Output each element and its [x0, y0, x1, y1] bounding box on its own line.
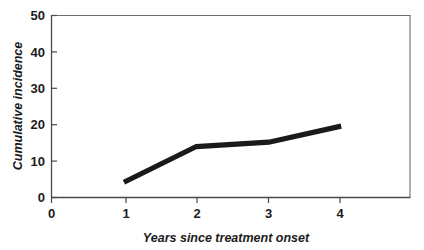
y-tick-label-0: 0: [38, 190, 45, 205]
line-chart: 0 10 20 30 40 50 0 1 2 3 4 Cumulative in…: [0, 0, 424, 250]
x-tick-label-4: 4: [336, 206, 344, 221]
y-tick-label-50: 50: [31, 8, 45, 23]
y-tick-label-10: 10: [31, 154, 45, 169]
y-tick-label-20: 20: [31, 117, 45, 132]
y-axis-title: Cumulative incidence: [11, 42, 25, 171]
chart-background: [0, 0, 424, 250]
y-tick-label-30: 30: [31, 81, 45, 96]
chart-figure: 0 10 20 30 40 50 0 1 2 3 4 Cumulative in…: [0, 0, 424, 250]
x-tick-label-1: 1: [122, 206, 129, 221]
x-tick-label-3: 3: [265, 206, 272, 221]
x-tick-label-2: 2: [193, 206, 200, 221]
y-tick-label-40: 40: [31, 45, 45, 60]
x-axis-title: Years since treatment onset: [143, 231, 310, 245]
x-tick-label-0: 0: [48, 206, 55, 221]
